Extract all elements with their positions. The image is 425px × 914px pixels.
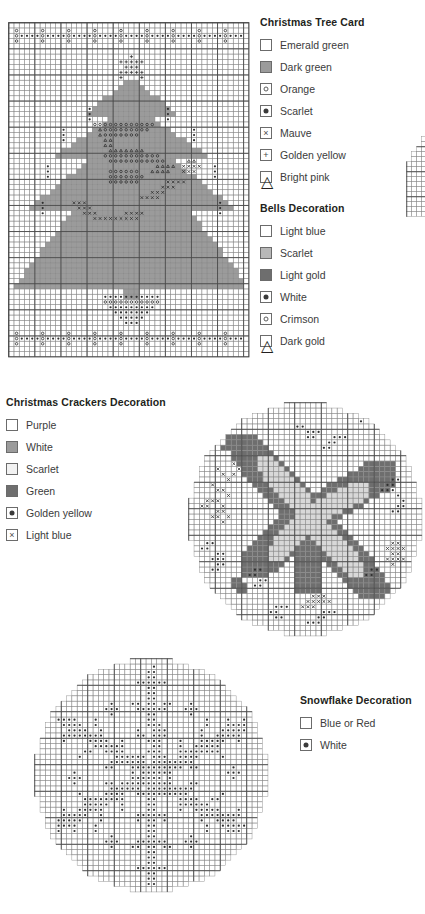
legend-item-label: Green xyxy=(26,485,55,498)
cross-swatch-icon: × xyxy=(6,529,18,541)
empty-swatch-icon xyxy=(6,419,18,431)
legend-item-label: Crimson xyxy=(280,313,319,326)
legend-item[interactable]: +Golden yellow xyxy=(260,144,365,166)
legend-bells-decoration: Bells DecorationLight blueScarletLight g… xyxy=(260,202,344,352)
legend-item-label: Light gold xyxy=(280,269,326,282)
legend-item-label: Blue or Red xyxy=(320,717,375,730)
legend-snowflake-decoration: Snowflake DecorationBlue or RedWhite xyxy=(300,694,412,756)
legend-title: Christmas Tree Card xyxy=(260,16,365,29)
legend-item[interactable]: Scarlet xyxy=(260,242,344,264)
legend-item-label: Golden yellow xyxy=(26,507,92,520)
christmas-crackers-chart xyxy=(188,402,423,637)
empty-swatch-icon xyxy=(260,269,272,281)
legend-item-label: White xyxy=(320,739,347,752)
snowflake-decoration-chart xyxy=(34,658,269,893)
legend-item[interactable]: Scarlet xyxy=(260,100,365,122)
legend-item[interactable]: Emerald green xyxy=(260,34,365,56)
legend-item[interactable]: Crimson xyxy=(260,308,344,330)
legend-item[interactable]: ×Light blue xyxy=(6,524,166,546)
empty-swatch-icon xyxy=(260,225,272,237)
pattern-page: Christmas Tree CardEmerald greenDark gre… xyxy=(0,0,425,914)
circle-swatch-icon xyxy=(260,83,272,95)
empty-swatch-icon xyxy=(260,61,272,73)
empty-swatch-icon xyxy=(6,441,18,453)
legend-item[interactable]: White xyxy=(300,734,412,756)
legend-item-label: Golden yellow xyxy=(280,149,346,162)
bells-decoration-chart xyxy=(406,96,425,218)
legend-item[interactable]: ×Mauve xyxy=(260,122,365,144)
triangle-swatch-icon: △ xyxy=(260,335,272,347)
legend-item-label: Light blue xyxy=(280,225,326,238)
legend-item[interactable]: Blue or Red xyxy=(300,712,412,734)
legend-item[interactable]: White xyxy=(260,286,344,308)
empty-swatch-icon xyxy=(300,717,312,729)
legend-item-label: White xyxy=(280,291,307,304)
circle-swatch-icon xyxy=(260,313,272,325)
legend-item-label: Scarlet xyxy=(26,463,59,476)
legend-item[interactable]: Green xyxy=(6,480,166,502)
legend-item[interactable]: Light blue xyxy=(260,220,344,242)
cross-swatch-icon: × xyxy=(260,127,272,139)
legend-item-label: Mauve xyxy=(280,127,312,140)
legend-item-label: Dark green xyxy=(280,61,332,74)
legend-item[interactable]: △Dark gold xyxy=(260,330,344,352)
legend-item-label: Purple xyxy=(26,419,56,432)
legend-item[interactable]: Light gold xyxy=(260,264,344,286)
legend-title: Bells Decoration xyxy=(260,202,344,215)
legend-item-label: Dark gold xyxy=(280,335,325,348)
dot-swatch-icon xyxy=(260,291,272,303)
empty-swatch-icon xyxy=(260,39,272,51)
triangle-swatch-icon: △ xyxy=(260,171,272,183)
legend-item-label: Orange xyxy=(280,83,315,96)
empty-swatch-icon xyxy=(260,247,272,259)
legend-item[interactable]: White xyxy=(6,436,166,458)
legend-item-label: Light blue xyxy=(26,529,72,542)
legend-item[interactable]: Purple xyxy=(6,414,166,436)
legend-item-label: Scarlet xyxy=(280,247,313,260)
legend-christmas-tree-card: Christmas Tree CardEmerald greenDark gre… xyxy=(260,16,365,188)
legend-item[interactable]: Golden yellow xyxy=(6,502,166,524)
legend-item-label: Bright pink xyxy=(280,171,330,184)
dot-swatch-icon xyxy=(260,105,272,117)
legend-item[interactable]: Dark green xyxy=(260,56,365,78)
dot-swatch-icon xyxy=(6,507,18,519)
dot-swatch-icon xyxy=(300,739,312,751)
legend-title: Snowflake Decoration xyxy=(300,694,412,707)
empty-swatch-icon xyxy=(6,485,18,497)
legend-item-label: Scarlet xyxy=(280,105,313,118)
legend-item-label: Emerald green xyxy=(280,39,349,52)
legend-item[interactable]: △Bright pink xyxy=(260,166,365,188)
legend-item[interactable]: Orange xyxy=(260,78,365,100)
legend-title: Christmas Crackers Decoration xyxy=(6,396,166,409)
christmas-tree-card-chart xyxy=(8,22,250,358)
plus-swatch-icon: + xyxy=(260,149,272,161)
legend-item-label: White xyxy=(26,441,53,454)
legend-item[interactable]: Scarlet xyxy=(6,458,166,480)
legend-christmas-crackers-decoration: Christmas Crackers DecorationPurpleWhite… xyxy=(6,396,166,546)
empty-swatch-icon xyxy=(6,463,18,475)
